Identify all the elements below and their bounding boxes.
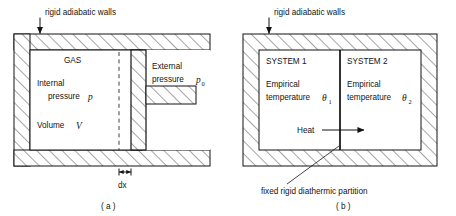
- panel-b-system1-empirical-label: Empirical: [266, 80, 300, 89]
- panel-b-theta1-symbol: θ: [322, 93, 327, 103]
- panel-a-gas-label: GAS: [64, 56, 82, 65]
- panel-a-external-label: External: [152, 62, 182, 71]
- panel-a-piston-rod: [146, 86, 196, 104]
- panel-a-left-wall: [14, 34, 30, 166]
- panel-a-volume-label: Volume: [37, 121, 65, 130]
- panel-a-dx-label: dx: [118, 181, 127, 190]
- panel-b-theta2-subscript: 2: [409, 98, 412, 105]
- panel-b-theta2-symbol: θ: [402, 93, 407, 103]
- panel-a-external-pressure-label: pressure: [152, 75, 184, 84]
- panel-a-piston-face: [131, 50, 146, 150]
- thermodynamics-figure: rigid adiabatic walls GAS Internal press…: [0, 0, 456, 216]
- panel-a-top-wall: [14, 34, 210, 50]
- panel-a-external-pressure-subscript: 0: [202, 80, 205, 87]
- panel-a-gas-cavity: [30, 50, 142, 150]
- panel-b-heat-label: Heat: [297, 126, 315, 135]
- panel-b-system1-temperature-label: temperature: [266, 93, 311, 102]
- panel-b-callout-label: rigid adiabatic walls: [274, 8, 345, 17]
- panel-b-partition-note: fixed rigid diathermic partition: [261, 187, 368, 196]
- panel-b-theta1-subscript: 1: [329, 98, 332, 105]
- panel-a-internal-label: Internal: [37, 79, 64, 88]
- panel-a-bottom-wall: [14, 150, 210, 166]
- panel-a-external-pressure-symbol: p: [195, 75, 201, 85]
- panel-b-system2-temperature-label: temperature: [347, 93, 392, 102]
- panel-b-system2-empirical-label: Empirical: [347, 80, 381, 89]
- panel-a-internal-pressure-label: pressure: [48, 92, 80, 101]
- panel-b-system2-label: SYSTEM 2: [347, 57, 388, 66]
- panel-b-system1-label: SYSTEM 1: [266, 57, 307, 66]
- panel-a-pressure-symbol: p: [87, 92, 93, 102]
- panel-b-caption: ( b ): [336, 202, 351, 211]
- panel-a-caption: ( a ): [101, 202, 116, 211]
- panel-a-callout-label: rigid adiabatic walls: [45, 8, 116, 17]
